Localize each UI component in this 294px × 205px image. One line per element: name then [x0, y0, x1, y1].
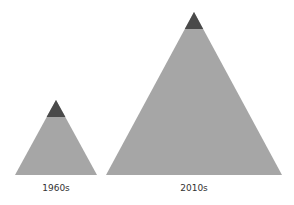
label-1960s: 1960s [36, 183, 76, 193]
pyramid-1960s-cap [47, 100, 66, 117]
pyramid-2010s-body [106, 12, 282, 175]
pyramid-diagram [0, 0, 294, 205]
pyramid-2010s-cap [185, 12, 203, 29]
label-2010s: 2010s [174, 183, 214, 193]
